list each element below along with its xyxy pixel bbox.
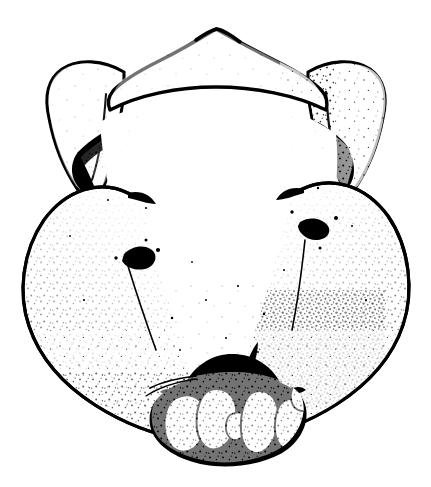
brain-dorsal-view-drawing: Dorsal view of vertebrate brain [0,0,431,487]
illustration-figure: Dorsal view of vertebrate brain [0,0,431,487]
